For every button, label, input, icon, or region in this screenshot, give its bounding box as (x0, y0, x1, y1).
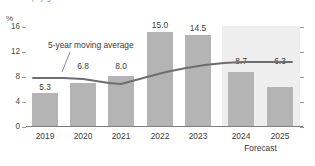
x-tick-label-2019: 2019 (30, 131, 60, 141)
annotation-leader-line (62, 52, 70, 72)
moving-average-annotation: 5-year moving average (48, 40, 134, 50)
chart-plot-area: % 16 12 8 4 0 5.3 6.8 8.0 15.0 14.5 8.7 … (0, 0, 315, 166)
moving-average-overlay (0, 0, 315, 166)
x-tick-label-2024: 2024 (226, 131, 256, 141)
x-tick-label-2023: 2023 (183, 131, 213, 141)
x-tick-label-2020: 2020 (68, 131, 98, 141)
moving-average-line (33, 62, 292, 84)
forecast-caption: Forecast (226, 143, 295, 153)
x-tick-label-2025: 2025 (265, 131, 295, 141)
x-tick-label-2021: 2021 (106, 131, 136, 141)
x-tick-label-2022: 2022 (145, 131, 175, 141)
